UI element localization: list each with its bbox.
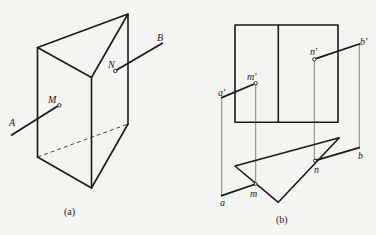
label-b: b bbox=[358, 150, 363, 161]
line-segment-nb bbox=[117, 43, 163, 70]
panel-b: a' m' n' b' a m n b (b) bbox=[218, 25, 368, 226]
panel-a: A M N B (a) bbox=[8, 14, 163, 218]
label-A: A bbox=[8, 117, 16, 128]
prism-bottom-edge-left bbox=[38, 157, 92, 188]
label-m: m bbox=[250, 188, 257, 199]
caption-a: (a) bbox=[64, 206, 75, 218]
top-segment-nb bbox=[315, 148, 359, 161]
line-segment-am bbox=[12, 106, 58, 135]
diagram-svg: A M N B (a) a' m' n' b' a m n b ( bbox=[0, 0, 376, 235]
label-n-prime: n' bbox=[310, 46, 318, 57]
caption-b: (b) bbox=[276, 214, 288, 226]
point-n-prime bbox=[313, 58, 316, 61]
prism-hidden-edge bbox=[38, 124, 129, 157]
label-m-prime: m' bbox=[247, 71, 257, 82]
label-n: n bbox=[314, 164, 319, 175]
point-n-top bbox=[314, 159, 317, 162]
label-a: a bbox=[220, 197, 225, 208]
point-m bbox=[58, 104, 61, 107]
front-segment-am bbox=[222, 84, 255, 98]
point-m-top bbox=[254, 183, 257, 186]
label-a-prime: a' bbox=[218, 87, 226, 98]
prism-bottom-edge-right bbox=[92, 124, 129, 188]
point-m-prime bbox=[254, 82, 257, 85]
label-M: M bbox=[47, 94, 57, 105]
label-b-prime: b' bbox=[360, 36, 368, 47]
label-N: N bbox=[107, 59, 116, 70]
label-B: B bbox=[157, 32, 163, 43]
diagram-canvas: A M N B (a) a' m' n' b' a m n b ( bbox=[0, 0, 376, 235]
